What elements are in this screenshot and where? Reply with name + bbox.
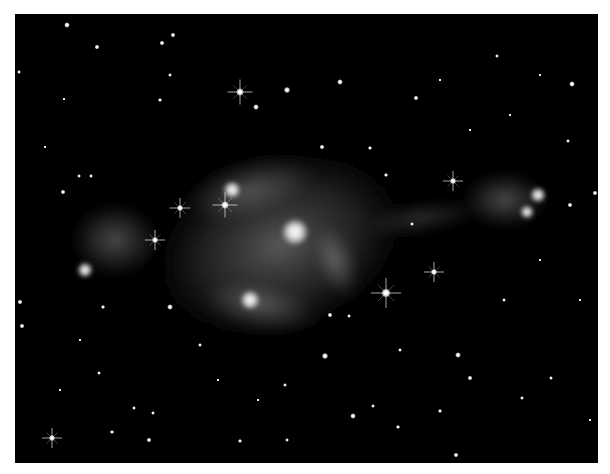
star (328, 313, 333, 318)
star (89, 174, 93, 178)
star (78, 338, 81, 341)
star (61, 190, 66, 195)
star (455, 352, 461, 358)
star (588, 418, 591, 421)
star (95, 45, 100, 50)
star (468, 128, 471, 131)
star (238, 439, 242, 443)
star (167, 304, 173, 310)
star (253, 104, 259, 110)
star (502, 298, 506, 302)
star (43, 145, 46, 148)
star (18, 300, 23, 305)
star (538, 258, 541, 261)
knot-east-knot-2 (520, 205, 534, 219)
star (520, 396, 524, 400)
star (410, 222, 414, 226)
knot-core (281, 218, 309, 246)
nebula-photograph (15, 14, 598, 463)
knot-lower-glow (240, 290, 260, 310)
star (566, 139, 570, 143)
star (495, 54, 499, 58)
star (147, 438, 152, 443)
star (158, 98, 162, 102)
star (198, 343, 202, 347)
star (284, 87, 290, 93)
star (77, 174, 81, 178)
star (320, 145, 325, 150)
star (438, 409, 442, 413)
star (568, 203, 573, 208)
nebula-scene (15, 14, 598, 463)
star (62, 97, 65, 100)
star (283, 383, 287, 387)
star (368, 146, 372, 150)
star (438, 78, 441, 81)
star (151, 411, 155, 415)
star (97, 371, 101, 375)
star (132, 406, 136, 410)
star (508, 113, 511, 116)
star (538, 73, 541, 76)
star (468, 376, 473, 381)
star (454, 453, 459, 458)
star (58, 388, 61, 391)
star (20, 324, 25, 329)
star (171, 33, 176, 38)
star (101, 305, 105, 309)
star (337, 79, 343, 85)
star (64, 22, 70, 28)
star (549, 376, 553, 380)
star (347, 314, 351, 318)
star (322, 353, 328, 359)
star (371, 404, 375, 408)
star (398, 348, 402, 352)
knot-east-knot-1 (530, 187, 546, 203)
star (414, 96, 419, 101)
star (216, 378, 219, 381)
star (593, 191, 598, 196)
star (578, 298, 581, 301)
star (256, 398, 259, 401)
star (285, 438, 289, 442)
star (384, 173, 388, 177)
star (396, 425, 400, 429)
knot-west-knot (77, 262, 93, 278)
star (350, 413, 356, 419)
star (569, 81, 575, 87)
star (17, 70, 21, 74)
star (160, 41, 165, 46)
star (168, 73, 172, 77)
knot-upper-glow (223, 181, 241, 199)
star (110, 430, 114, 434)
